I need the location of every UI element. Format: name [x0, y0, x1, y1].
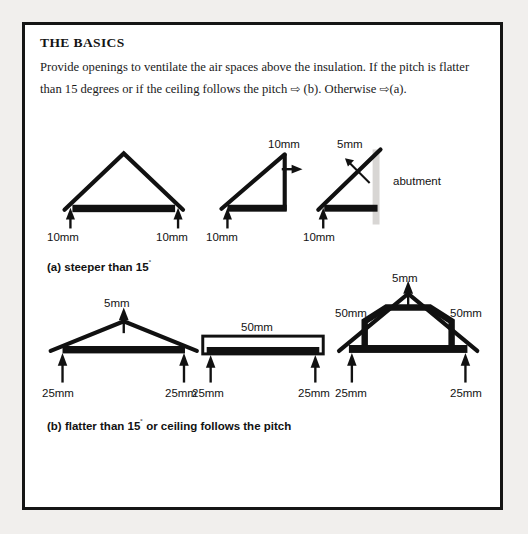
label-abutment-gap: 5mm: [337, 138, 363, 150]
caption-a-text: (a) steeper than 15: [47, 261, 149, 273]
abutment-roof-diagram: [318, 149, 380, 228]
label-shallow-gable-left-eave: 25mm: [42, 387, 74, 399]
caption-b: (b) flatter than 15˚ or ceiling follows …: [47, 418, 291, 432]
label-flat-roof-air-gap: 50mm: [241, 321, 273, 333]
page-title: THE BASICS: [40, 35, 125, 51]
label-gable-right-eave: 10mm: [156, 231, 188, 243]
intro-paragraph: Provide openings to ventilate the air sp…: [40, 56, 492, 100]
label-abutment-left-eave: 10mm: [303, 231, 335, 243]
right-arrow-icon: ⇨: [290, 82, 300, 96]
right-arrow-icon-2: ⇨: [380, 82, 390, 96]
label-room-in-roof-left-eave: 25mm: [335, 387, 367, 399]
room-in-roof-diagram: [339, 281, 477, 383]
label-monopitch-high-point: 10mm: [268, 138, 300, 150]
label-shallow-gable-ridge: 5mm: [104, 297, 130, 309]
caption-a-degree: ˚: [149, 259, 152, 268]
label-abutment-wall: abutment: [393, 175, 441, 187]
gable-roof-diagram: [65, 153, 184, 228]
intro-text-part3: (a).: [390, 82, 407, 96]
flat-roof-diagram: [203, 336, 323, 382]
label-room-in-roof-ridge: 5mm: [392, 272, 418, 284]
caption-b-text: (b) flatter than 15: [47, 420, 140, 432]
label-flat-roof-right-end: 25mm: [298, 387, 330, 399]
basics-panel: THE BASICS Provide openings to ventilate…: [22, 22, 503, 510]
label-room-in-roof-right-eave: 25mm: [450, 387, 482, 399]
shallow-gable-roof-diagram: [51, 307, 197, 382]
label-room-in-roof-left-slope: 50mm: [335, 307, 367, 319]
abutment-wall: [373, 149, 380, 224]
mono-pitch-roof-diagram: [222, 154, 303, 228]
caption-a: (a) steeper than 15˚: [47, 259, 151, 273]
label-monopitch-left-eave: 10mm: [206, 231, 238, 243]
label-gable-left-eave: 10mm: [47, 231, 79, 243]
intro-text-part2: (b). Otherwise: [300, 82, 379, 96]
label-flat-roof-left-end: 25mm: [192, 387, 224, 399]
label-room-in-roof-right-slope: 50mm: [450, 307, 482, 319]
caption-b-tail: or ceiling follows the pitch: [143, 420, 291, 432]
